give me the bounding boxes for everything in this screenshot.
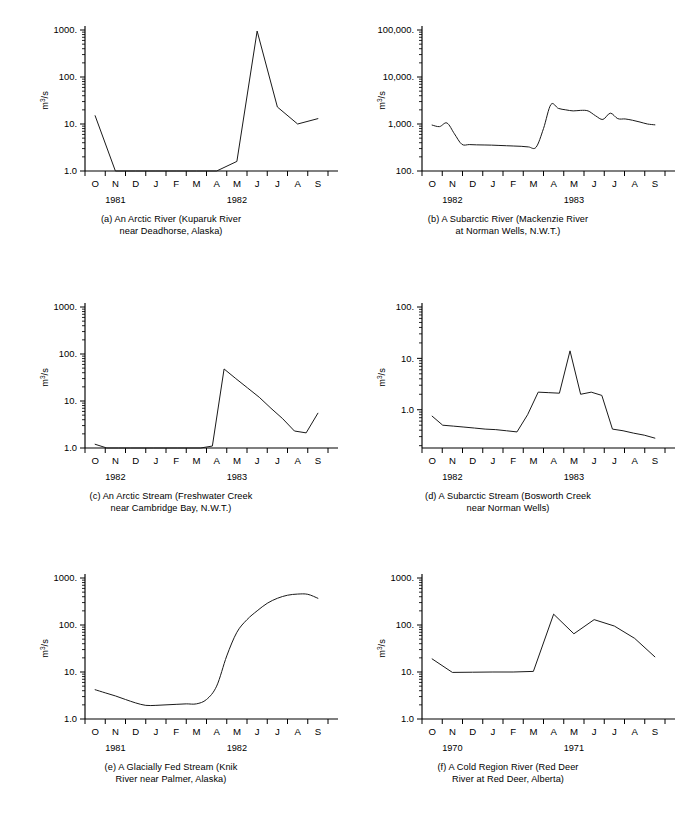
month-label-10: A	[631, 455, 638, 466]
month-label-0: O	[91, 178, 98, 189]
chart-panel-c: 1.010.100.1000.ONDJFMAMJJAS19821983m3/s(…	[2, 285, 340, 562]
y-axis-title: m3/s	[376, 91, 388, 110]
month-label-6: A	[213, 178, 220, 189]
month-label-11: S	[652, 726, 658, 737]
month-label-6: A	[550, 726, 557, 737]
month-label-11: S	[652, 178, 658, 189]
y-axis-title: m3/s	[39, 639, 51, 658]
discharge-series-b	[432, 104, 655, 149]
caption-line-1: River near Palmer, Alaska)	[2, 773, 340, 785]
month-label-0: O	[91, 455, 98, 466]
y-axis-title: m3/s	[376, 639, 388, 658]
caption-line-1: near Deadhorse, Alaska)	[2, 225, 340, 237]
month-label-0: O	[428, 178, 435, 189]
y-axis-title: m3/s	[39, 368, 51, 387]
month-label-7: M	[570, 726, 578, 737]
month-label-3: J	[490, 178, 495, 189]
y-tick-label: 10,000.	[383, 71, 414, 82]
month-label-5: M	[192, 726, 200, 737]
hydrograph-figure: 1.010.100.1000.ONDJFMAMJJAS19811982m3/s(…	[0, 0, 677, 830]
month-label-7: M	[570, 455, 578, 466]
chart-panel-d: 1.010.100.ONDJFMAMJJAS19821983m3/s(d) A …	[339, 285, 677, 562]
month-label-4: F	[510, 455, 516, 466]
y-tick-label: 10.	[64, 666, 77, 677]
year-label-1: 1983	[564, 472, 584, 482]
month-label-1: N	[449, 455, 456, 466]
panel-caption-a: (a) An Arctic River (Kuparuk Rivernear D…	[2, 213, 340, 238]
panel-caption-e: (e) A Glacially Fed Stream (KnikRiver ne…	[2, 761, 340, 786]
month-label-6: A	[213, 455, 220, 466]
month-label-9: J	[612, 455, 617, 466]
year-label-1: 1982	[227, 743, 247, 753]
svg-text:m3/s: m3/s	[39, 91, 51, 110]
y-tick-label: 10.	[401, 353, 414, 364]
month-label-3: J	[490, 726, 495, 737]
y-tick-label: 1000.	[54, 24, 77, 35]
month-label-9: J	[612, 178, 617, 189]
y-tick-label: 100.	[59, 619, 77, 630]
y-tick-label: 10.	[64, 118, 77, 129]
month-label-8: J	[592, 455, 597, 466]
y-tick-label: 1000.	[54, 572, 77, 583]
month-label-9: J	[275, 726, 280, 737]
year-label-1: 1983	[227, 472, 247, 482]
caption-line-0: (d) A Subarctic Stream (Bosworth Creek	[339, 490, 677, 502]
month-label-4: F	[173, 455, 179, 466]
month-label-5: M	[192, 455, 200, 466]
plot-area-b: 100.1,000.10,000.100,000.ONDJFMAMJJAS198…	[339, 8, 677, 226]
month-label-4: F	[173, 178, 179, 189]
caption-line-0: (f) A Cold Region River (Red Deer	[339, 761, 677, 773]
y-tick-label: 1.0	[64, 165, 77, 176]
svg-text:m3/s: m3/s	[376, 91, 388, 110]
month-label-3: J	[490, 455, 495, 466]
chart-panel-e: 1.010.100.1000.ONDJFMAMJJAS19811982m3/s(…	[2, 556, 340, 830]
month-label-8: J	[592, 726, 597, 737]
year-label-1: 1971	[564, 743, 584, 753]
discharge-series-a	[95, 31, 318, 171]
svg-text:m3/s: m3/s	[39, 368, 51, 387]
year-label-0: 1982	[442, 195, 462, 205]
chart-panel-a: 1.010.100.1000.ONDJFMAMJJAS19811982m3/s(…	[2, 8, 340, 285]
month-label-4: F	[510, 178, 516, 189]
plot-area-e: 1.010.100.1000.ONDJFMAMJJAS19811982m3/s	[2, 556, 340, 774]
y-tick-label: 1.0	[401, 404, 414, 415]
month-label-10: A	[294, 178, 301, 189]
month-label-2: D	[132, 455, 139, 466]
month-label-3: J	[153, 726, 158, 737]
year-label-0: 1982	[442, 472, 462, 482]
month-label-8: J	[255, 455, 260, 466]
month-label-8: J	[255, 178, 260, 189]
y-axis-title: m3/s	[376, 368, 388, 387]
caption-line-0: (a) An Arctic River (Kuparuk River	[2, 213, 340, 225]
month-label-7: M	[233, 726, 241, 737]
month-label-6: A	[550, 178, 557, 189]
month-label-4: F	[510, 726, 516, 737]
month-label-8: J	[592, 178, 597, 189]
svg-text:m3/s: m3/s	[376, 368, 388, 387]
discharge-series-d	[432, 351, 655, 438]
y-tick-label: 1,000.	[388, 118, 414, 129]
month-label-1: N	[449, 726, 456, 737]
month-label-10: A	[631, 178, 638, 189]
month-label-2: D	[469, 455, 476, 466]
plot-area-a: 1.010.100.1000.ONDJFMAMJJAS19811982m3/s	[2, 8, 340, 226]
month-label-2: D	[132, 726, 139, 737]
panel-caption-d: (d) A Subarctic Stream (Bosworth Creekne…	[339, 490, 677, 515]
panel-caption-b: (b) A Subarctic River (Mackenzie Riverat…	[339, 213, 677, 238]
y-axis-title: m3/s	[39, 91, 51, 110]
month-label-11: S	[652, 455, 658, 466]
month-label-7: M	[570, 178, 578, 189]
plot-area-d: 1.010.100.ONDJFMAMJJAS19821983m3/s	[339, 285, 677, 503]
caption-line-1: River at Red Deer, Alberta)	[339, 773, 677, 785]
month-label-9: J	[612, 726, 617, 737]
year-label-0: 1970	[442, 743, 462, 753]
month-label-3: J	[153, 455, 158, 466]
month-label-9: J	[275, 178, 280, 189]
month-label-1: N	[449, 178, 456, 189]
caption-line-1: near Norman Wells)	[339, 502, 677, 514]
y-tick-label: 1000.	[391, 572, 414, 583]
month-label-0: O	[428, 455, 435, 466]
month-label-8: J	[255, 726, 260, 737]
month-label-0: O	[91, 726, 98, 737]
year-label-1: 1983	[564, 195, 584, 205]
